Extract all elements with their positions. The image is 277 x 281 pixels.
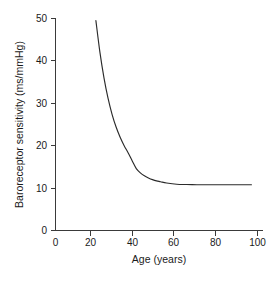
y-tick-label-30: 30 xyxy=(36,98,48,109)
y-axis-tick-labels: 50 40 30 20 10 0 xyxy=(36,13,48,236)
y-axis-title: Baroreceptor sensitivity (ms/mmHg) xyxy=(13,41,25,208)
y-tick-label-20: 20 xyxy=(36,140,48,151)
x-tick-label-20: 20 xyxy=(85,237,97,248)
y-tick-label-50: 50 xyxy=(36,13,48,24)
y-tick-label-40: 40 xyxy=(36,55,48,66)
x-axis-ticks xyxy=(91,231,258,236)
y-tick-label-10: 10 xyxy=(36,183,48,194)
chart-figure: 50 40 30 20 10 0 0 20 40 60 80 100 Age (… xyxy=(0,0,277,281)
x-tick-label-40: 40 xyxy=(127,237,139,248)
baroreceptor-sensitivity-line-chart: 50 40 30 20 10 0 0 20 40 60 80 100 Age (… xyxy=(0,0,277,281)
x-axis-tick-labels: 0 20 40 60 80 100 xyxy=(53,237,267,248)
x-tick-label-80: 80 xyxy=(210,237,222,248)
y-tick-label-0: 0 xyxy=(41,225,47,236)
x-tick-label-100: 100 xyxy=(249,237,266,248)
x-tick-label-0: 0 xyxy=(53,237,59,248)
y-axis-ticks xyxy=(51,19,56,231)
sensitivity-curve xyxy=(96,21,252,185)
x-axis-title: Age (years) xyxy=(132,253,186,265)
x-tick-label-60: 60 xyxy=(168,237,180,248)
